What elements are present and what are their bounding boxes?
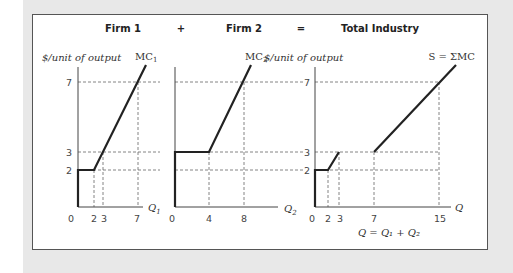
panel-firm2: 0 4 8 Q2 MC2 bbox=[169, 51, 304, 224]
panel1-ytick-3: 3 bbox=[66, 147, 72, 158]
panel1-ylabel: $/unit of output bbox=[42, 52, 122, 63]
plus-sign: + bbox=[177, 23, 185, 34]
panel1-xtick-2: 2 bbox=[91, 213, 97, 224]
panel3-ylabel: $/unit of output bbox=[264, 52, 344, 63]
panel1-ytick-7: 7 bbox=[66, 77, 72, 88]
panel3-ytick-3: 3 bbox=[304, 147, 310, 158]
firm1-title: Firm 1 bbox=[105, 23, 141, 34]
panel1-xtick-3: 3 bbox=[101, 213, 107, 224]
panel2-xtick-0: 0 bbox=[169, 213, 175, 224]
panel3-xtick-2: 2 bbox=[325, 213, 331, 224]
panel1-xtick-7: 7 bbox=[134, 213, 140, 224]
panel3-ytick-2: 2 bbox=[304, 165, 310, 176]
panel1-xlabel: Q1 bbox=[148, 202, 161, 216]
panel-total-industry: 7 3 2 0 2 3 7 15 Q Q = Q₁ + Q₂ S = ΣMC bbox=[304, 51, 475, 238]
equals-sign: = bbox=[297, 23, 305, 34]
panel3-xlabel: Q bbox=[455, 202, 463, 213]
panel2-xtick-4: 4 bbox=[206, 213, 212, 224]
panel2-xtick-8: 8 bbox=[241, 213, 247, 224]
mc1-label: MC1 bbox=[135, 51, 157, 64]
panel1-ytick-2: 2 bbox=[66, 165, 72, 176]
panel1-xtick-0: 0 bbox=[68, 213, 74, 224]
panel3-xtick-0: 0 bbox=[309, 213, 315, 224]
firm2-title: Firm 2 bbox=[226, 23, 262, 34]
supply-aggregation-diagram: Firm 1 + Firm 2 = Total Industry $/unit … bbox=[0, 0, 513, 273]
panel3-xtick-7: 7 bbox=[371, 213, 377, 224]
panel-firm1: 7 3 2 0 2 3 7 Q1 MC1 bbox=[66, 51, 161, 224]
supply-curve-label: S = ΣMC bbox=[428, 51, 475, 62]
panel3-xtick-3: 3 bbox=[337, 213, 343, 224]
panel3-sum-label: Q = Q₁ + Q₂ bbox=[358, 227, 420, 238]
total-industry-title: Total Industry bbox=[341, 23, 420, 34]
panel2-xlabel: Q2 bbox=[284, 203, 297, 217]
panel3-xtick-15: 15 bbox=[434, 213, 446, 224]
panel3-ytick-7: 7 bbox=[304, 77, 310, 88]
